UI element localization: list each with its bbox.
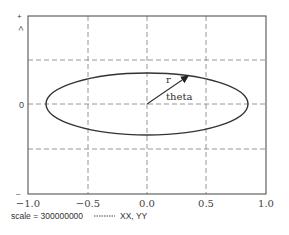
polarization-ellipse-chart: r theta + > 0 – −1.0 −0.5 0.0 0.5 1.0 sc… — [0, 0, 289, 235]
arrow-label-theta: theta — [166, 91, 192, 102]
x-tick-label: 1.0 — [258, 198, 274, 209]
y-label-zero: 0 — [19, 100, 24, 110]
x-tick-labels: −1.0 −0.5 0.0 0.5 1.0 — [16, 198, 274, 209]
legend-entry-xx-yy: XX, YY — [120, 211, 148, 221]
y-label-plus: + — [17, 12, 22, 21]
scale-label: scale = 300000000 — [11, 211, 83, 221]
y-label-minus: – — [16, 189, 21, 198]
x-tick-label: −0.5 — [76, 198, 100, 209]
y-label-v: > — [16, 26, 26, 31]
x-tick-label: 0.0 — [139, 198, 155, 209]
grid — [28, 16, 266, 194]
x-tick-label: −1.0 — [16, 198, 40, 209]
x-tick-label: 0.5 — [198, 198, 214, 209]
arrow-label-r: r — [166, 74, 171, 85]
